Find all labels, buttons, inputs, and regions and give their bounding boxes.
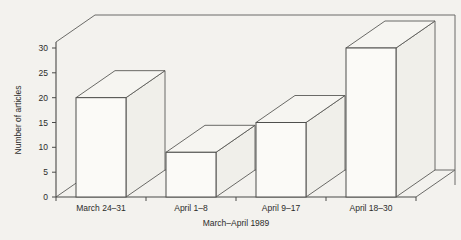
x-category-label-0: March 24–31	[76, 203, 126, 213]
x-axis-title: March–April 1989	[203, 218, 270, 228]
bar-2	[256, 96, 345, 198]
bars-layer	[76, 21, 435, 197]
y-tick-label-25: 25	[39, 68, 49, 78]
y-tick-label-0: 0	[43, 192, 48, 202]
y-tick-label-30: 30	[39, 43, 49, 53]
bar-0	[76, 71, 165, 197]
bar-3-face	[346, 48, 396, 197]
x-category-label-3: April 18–30	[349, 203, 392, 213]
y-tick-label-20: 20	[39, 93, 49, 103]
chart-container: 0 5 10 15 20 25 30 Number of articles Ma…	[0, 0, 461, 240]
y-tick-label-15: 15	[39, 118, 49, 128]
x-category-label-1: April 1–8	[174, 203, 208, 213]
y-tick-label-5: 5	[43, 167, 48, 177]
bar-3	[346, 21, 435, 197]
bar-chart-3d: 0 5 10 15 20 25 30 Number of articles Ma…	[0, 0, 461, 240]
y-tick-label-10: 10	[39, 142, 49, 152]
bar-1-face	[166, 152, 216, 197]
bar-0-face	[76, 98, 126, 197]
y-axis: 0 5 10 15 20 25 30 Number of articles	[13, 42, 56, 202]
bar-1	[166, 125, 255, 197]
x-category-label-2: April 9–17	[262, 203, 301, 213]
bar-3-side	[396, 21, 435, 197]
x-axis: March 24–31 April 1–8 April 9–17 April 1…	[56, 197, 416, 228]
y-axis-title: Number of articles	[13, 86, 23, 155]
frame-depth-top	[56, 15, 95, 42]
bar-2-face	[256, 123, 306, 198]
